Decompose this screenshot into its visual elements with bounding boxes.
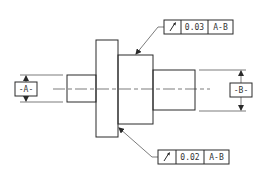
fcf-bottom-leader (119, 128, 158, 157)
fcf-top-tolerance: 0.03 (185, 23, 204, 32)
fcf-bottom-datum-ref: A-B (209, 153, 224, 162)
flange (96, 40, 118, 137)
datum-a-label: -A- (19, 85, 33, 94)
right-shaft (153, 70, 195, 110)
fcf-top-datum-ref: A-B (213, 23, 228, 32)
hub (118, 55, 153, 124)
fcf-bottom-tolerance: 0.02 (180, 153, 199, 162)
datum-b-label: -B- (234, 86, 248, 95)
technical-drawing: -A- -B- 0.03 A-B 0.02 A-B (0, 0, 267, 187)
left-shaft (67, 75, 96, 102)
fcf-bottom: 0.02 A-B (158, 150, 229, 164)
fcf-top: 0.03 A-B (164, 20, 233, 34)
fcf-top-leader (136, 27, 164, 54)
